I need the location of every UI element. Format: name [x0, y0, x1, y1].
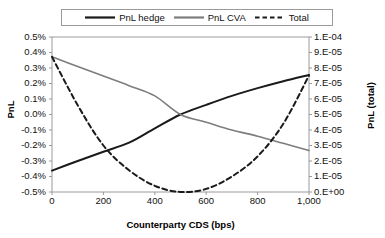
y-axis-right-tick-label-0: 1.E-04	[314, 32, 360, 42]
x-axis-tick-label-0: 0	[32, 196, 72, 206]
series-line-pnl-hedge	[52, 75, 309, 171]
y-axis-right-tick-label-7: 3.E-05	[314, 140, 360, 150]
y-axis-right-tick-label-2: 8.E-05	[314, 63, 360, 73]
y-axis-left-tick-label-1: 0.4%	[2, 47, 46, 57]
series-line-total	[52, 57, 309, 192]
y-axis-right-tick-label-3: 7.E-05	[314, 78, 360, 88]
y-axis-left-tick-label-5: 0.0%	[2, 109, 46, 119]
x-axis-title: Counterparty CDS (bps)	[52, 219, 309, 230]
y-axis-left-tick-label-4: 0.1%	[2, 94, 46, 104]
y-axis-left-tick-label-9: -0.4%	[2, 171, 46, 181]
series-line-pnl-cva	[52, 57, 309, 151]
x-axis-tick-label-5: 1,000	[289, 196, 329, 206]
y-axis-left-tick-label-3: 0.2%	[2, 78, 46, 88]
y-axis-right-tick-label-1: 9.E-05	[314, 47, 360, 57]
y-axis-left-tick-label-7: -0.2%	[2, 140, 46, 150]
y-axis-right-title: PnL (total)	[365, 82, 376, 130]
y-axis-right-tick-label-6: 4.E-05	[314, 125, 360, 135]
y-axis-left-tick-label-10: -0.5%	[2, 187, 46, 197]
x-axis-tick-label-2: 400	[135, 196, 175, 206]
x-axis-tick-label-4: 800	[238, 196, 278, 206]
y-axis-right-tick-label-8: 2.E-05	[314, 156, 360, 166]
y-axis-right-tick-label-4: 6.E-05	[314, 94, 360, 104]
x-axis-tick-label-1: 200	[83, 196, 123, 206]
x-axis-tick-label-3: 600	[186, 196, 226, 206]
y-axis-right-tick-label-5: 5.E-05	[314, 109, 360, 119]
y-axis-left-tick-label-0: 0.5%	[2, 32, 46, 42]
chart-container: PnL hedge PnL CVA Total PnL PnL (total) …	[0, 0, 385, 238]
y-axis-right-tick-label-10: 0.E+00	[314, 187, 360, 197]
y-axis-right-tick-label-9: 1.E-05	[314, 171, 360, 181]
y-axis-left-tick-label-2: 0.3%	[2, 63, 46, 73]
y-axis-left-tick-label-8: -0.3%	[2, 156, 46, 166]
y-axis-left-tick-label-6: -0.1%	[2, 125, 46, 135]
